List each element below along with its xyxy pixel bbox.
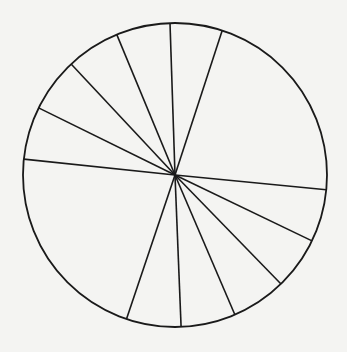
slice-divider-6 [175, 175, 181, 327]
slice-divider-5 [175, 175, 235, 315]
slice-divider-11 [117, 35, 175, 175]
slice-divider-9 [39, 108, 175, 175]
slice-divider-1 [175, 31, 222, 176]
slice-divider-8 [24, 159, 175, 175]
slice-divider-10 [71, 64, 175, 175]
pie-chart [0, 0, 347, 352]
slice-divider-7 [127, 175, 176, 319]
slice-divider-12 [170, 23, 175, 175]
slice-dividers [24, 23, 327, 327]
slice-divider-3 [175, 175, 312, 241]
slice-divider-2 [175, 175, 326, 190]
slice-divider-4 [175, 175, 281, 284]
